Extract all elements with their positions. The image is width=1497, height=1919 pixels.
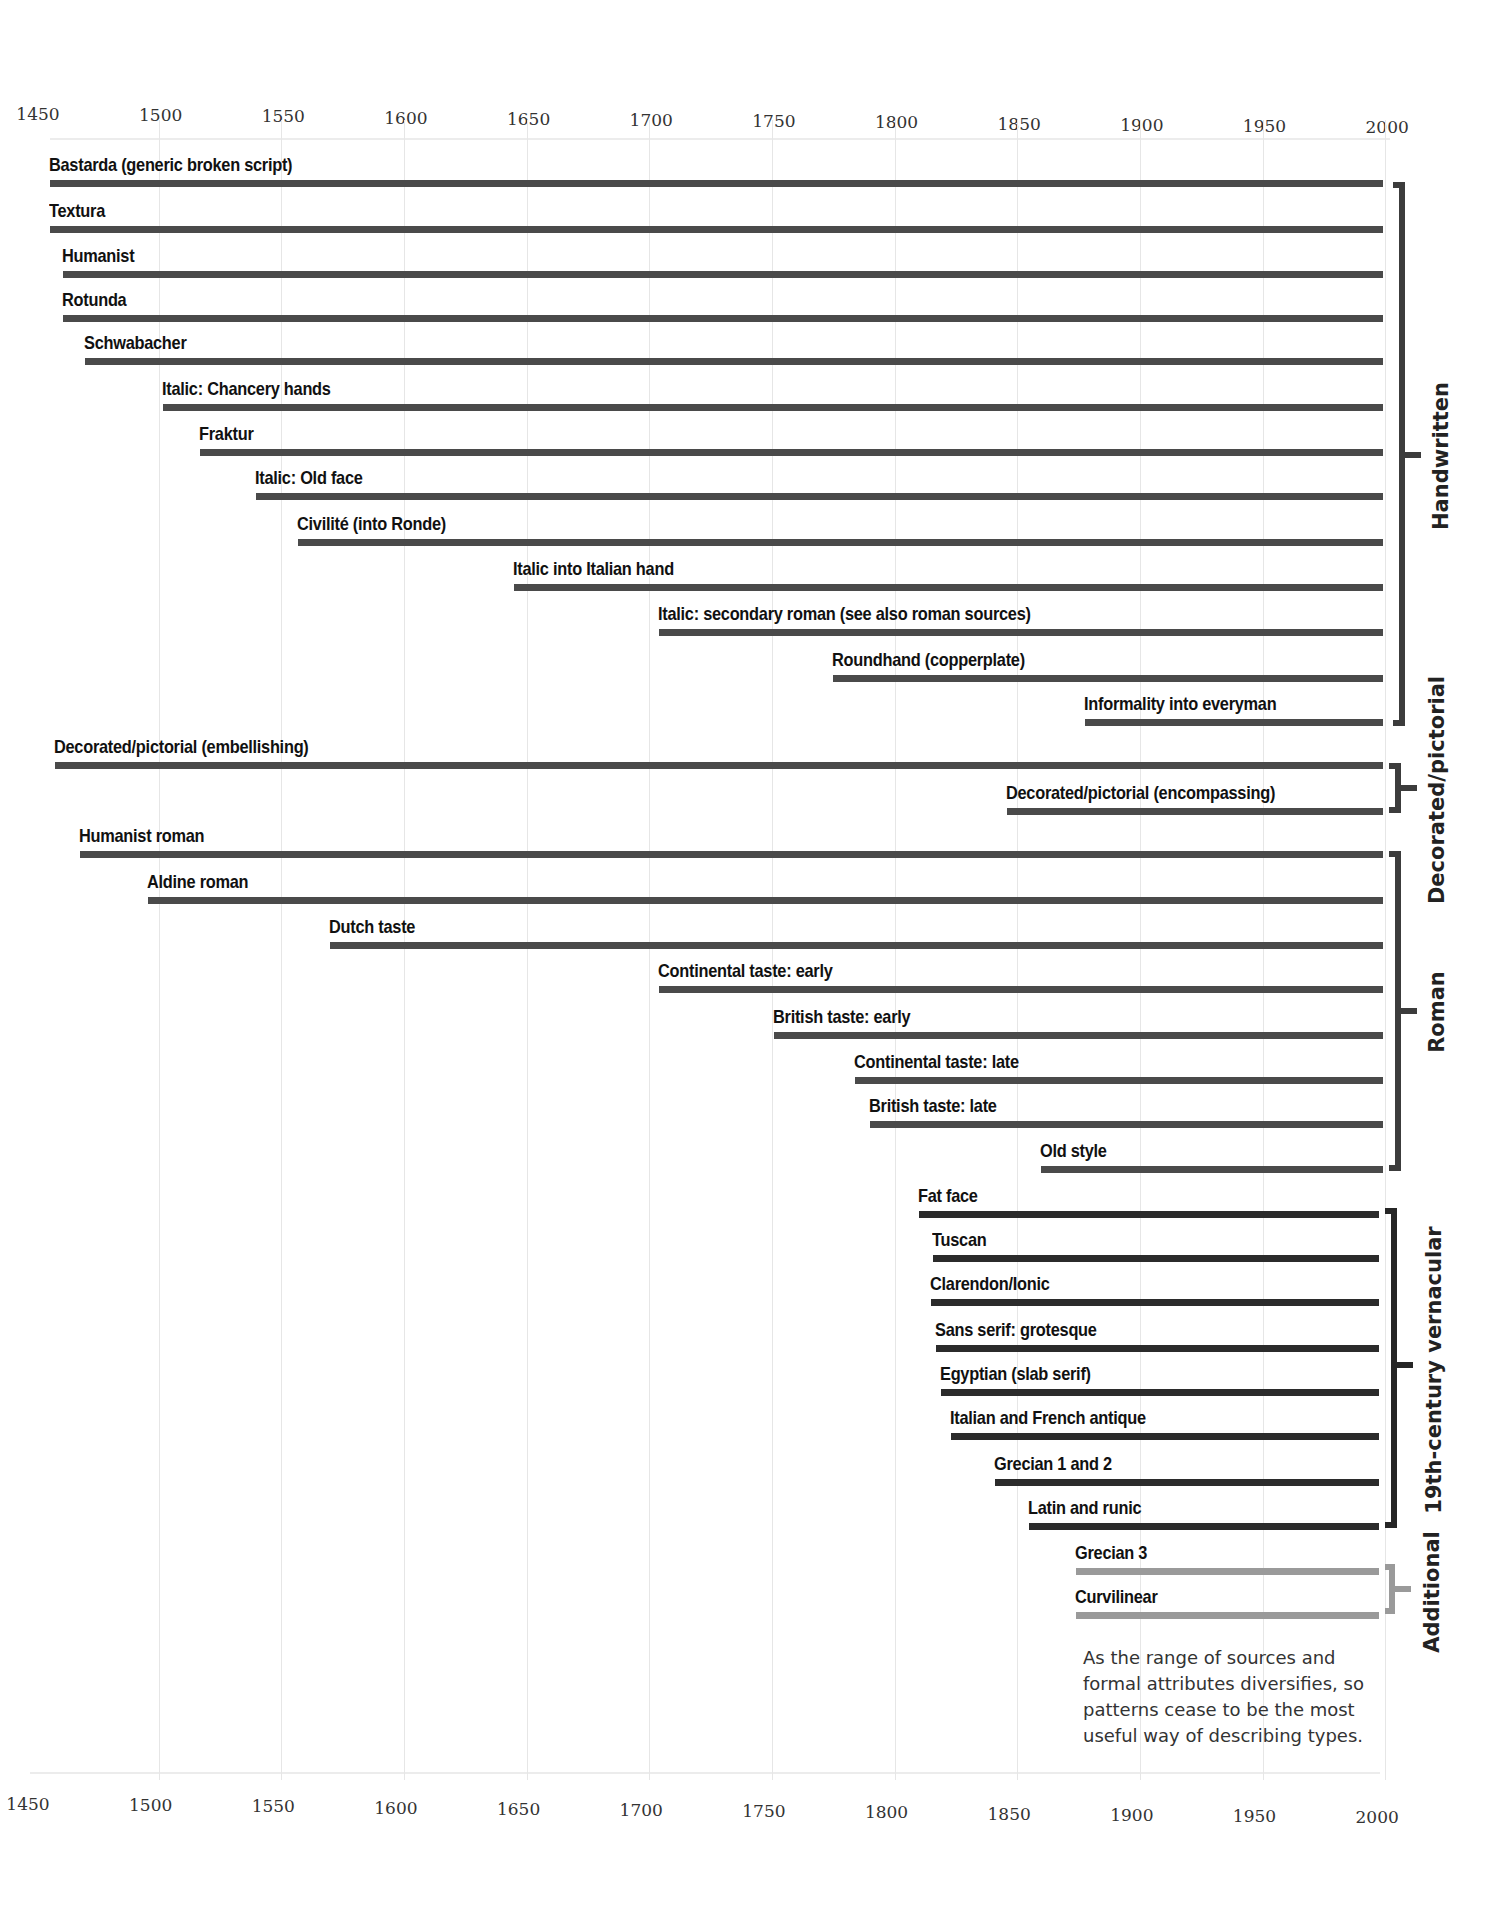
timeline-bar [148, 897, 1383, 904]
bar-label: Fat face [918, 1185, 978, 1207]
timeline-bar [50, 180, 1383, 187]
timeline-bar [774, 1032, 1383, 1039]
gridline [527, 120, 528, 1780]
bottom-tick-label: 1500 [129, 1795, 172, 1815]
timeline-bar [1076, 1612, 1380, 1619]
bottom-tick-label: 1900 [1110, 1805, 1153, 1825]
timeline-bar [659, 986, 1384, 993]
bar-label: Fraktur [199, 423, 254, 445]
bar-label: Italian and French antique [950, 1407, 1146, 1429]
timeline-bar [163, 404, 1383, 411]
gridline [895, 120, 896, 1780]
top-axis-line [50, 138, 1390, 140]
top-tick-label: 1950 [1243, 116, 1286, 136]
timeline-bar [63, 271, 1384, 278]
top-tick-label: 1800 [875, 112, 918, 132]
timeline-bar [200, 449, 1383, 456]
bar-label: Rotunda [62, 289, 126, 311]
timeline-bar [1076, 1568, 1380, 1575]
timeline-bar [855, 1077, 1383, 1084]
bar-label: Decorated/pictorial (embellishing) [54, 736, 309, 758]
bottom-tick-label: 2000 [1356, 1807, 1399, 1827]
bar-label: Tuscan [932, 1229, 986, 1251]
bar-label: Humanist [62, 245, 134, 267]
timeline-bar [1085, 719, 1383, 726]
gridline [1263, 120, 1264, 1780]
bar-label: Decorated/pictorial (encompassing) [1006, 782, 1275, 804]
group-label-roman: Roman [1425, 971, 1449, 1053]
bottom-tick-label: 1450 [6, 1794, 49, 1814]
bar-label: Egyptian (slab serif) [940, 1363, 1091, 1385]
timeline-bar [659, 629, 1384, 636]
bar-label: Bastarda (generic broken script) [49, 154, 292, 176]
top-tick-label: 1900 [1120, 115, 1163, 135]
bar-label: Textura [49, 200, 105, 222]
top-tick-label: 1450 [16, 104, 59, 124]
bar-label: Aldine roman [147, 871, 248, 893]
bottom-tick-label: 1600 [374, 1798, 417, 1818]
bar-label: Informality into everyman [1084, 693, 1276, 715]
bar-label: Continental taste: early [658, 960, 832, 982]
gridline [649, 120, 650, 1780]
timeline-bar [63, 315, 1384, 322]
top-tick-label: 2000 [1366, 117, 1409, 137]
group-label-additional: Additional [1420, 1531, 1444, 1653]
timeline-bar [1029, 1523, 1379, 1530]
timeline-bar [1007, 808, 1383, 815]
annotation-note: As the range of sources and formal attri… [1083, 1645, 1383, 1749]
bar-label: British taste: late [869, 1095, 997, 1117]
bottom-tick-label: 1650 [497, 1799, 540, 1819]
timeline-bar [933, 1255, 1379, 1262]
timeline-bar [298, 539, 1383, 546]
timeline-bar [330, 942, 1383, 949]
timeline-bar [936, 1345, 1379, 1352]
timeline-bar [951, 1433, 1380, 1440]
top-tick-label: 1700 [630, 110, 673, 130]
bar-label: Continental taste: late [854, 1051, 1019, 1073]
timeline-bar [1041, 1166, 1383, 1173]
timeline-bar [55, 762, 1383, 769]
bar-label: Grecian 3 [1075, 1542, 1147, 1564]
gridline [159, 120, 160, 1780]
timeline-bar [870, 1121, 1384, 1128]
top-tick-label: 1850 [998, 114, 1041, 134]
group-label-vernacular: 19th-century vernacular [1422, 1226, 1446, 1513]
gridline [772, 120, 773, 1780]
gridline [404, 120, 405, 1780]
timeline-bar [833, 675, 1383, 682]
timeline-bar [80, 851, 1383, 858]
top-tick-label: 1500 [139, 105, 182, 125]
timeline-bar [256, 493, 1383, 500]
bottom-tick-label: 1750 [742, 1801, 785, 1821]
bottom-axis-line [30, 1772, 1380, 1774]
bar-label: Latin and runic [1028, 1497, 1141, 1519]
bar-label: Old style [1040, 1140, 1107, 1162]
timeline-bar [941, 1389, 1379, 1396]
gridline [281, 120, 282, 1780]
bar-label: Civilité (into Ronde) [297, 513, 446, 535]
bar-label: Sans serif: grotesque [935, 1319, 1097, 1341]
timeline-bar [919, 1211, 1380, 1218]
top-tick-label: 1750 [752, 111, 795, 131]
timeline-bar [50, 226, 1383, 233]
gridline [1385, 120, 1386, 1780]
top-tick-label: 1600 [384, 108, 427, 128]
bar-label: Curvilinear [1075, 1586, 1158, 1608]
bar-label: Grecian 1 and 2 [994, 1453, 1112, 1475]
bar-label: Italic: Old face [255, 467, 363, 489]
bottom-tick-label: 1550 [252, 1796, 295, 1816]
bar-label: Italic: Chancery hands [162, 378, 331, 400]
bottom-tick-label: 1850 [988, 1804, 1031, 1824]
group-label-handwritten: Handwritten [1429, 382, 1453, 530]
gridline [1017, 120, 1018, 1780]
bar-label: Italic into Italian hand [513, 558, 674, 580]
bar-label: Schwabacher [84, 332, 187, 354]
bottom-tick-label: 1950 [1233, 1806, 1276, 1826]
bar-label: Italic: secondary roman (see also roman … [658, 603, 1031, 625]
top-tick-label: 1650 [507, 109, 550, 129]
timeline-bar [85, 358, 1384, 365]
group-label-decorated: Decorated/pictorial [1425, 676, 1449, 904]
bar-label: Clarendon/Ionic [930, 1273, 1050, 1295]
timeline-bar [931, 1299, 1379, 1306]
bar-label: Dutch taste [329, 916, 415, 938]
